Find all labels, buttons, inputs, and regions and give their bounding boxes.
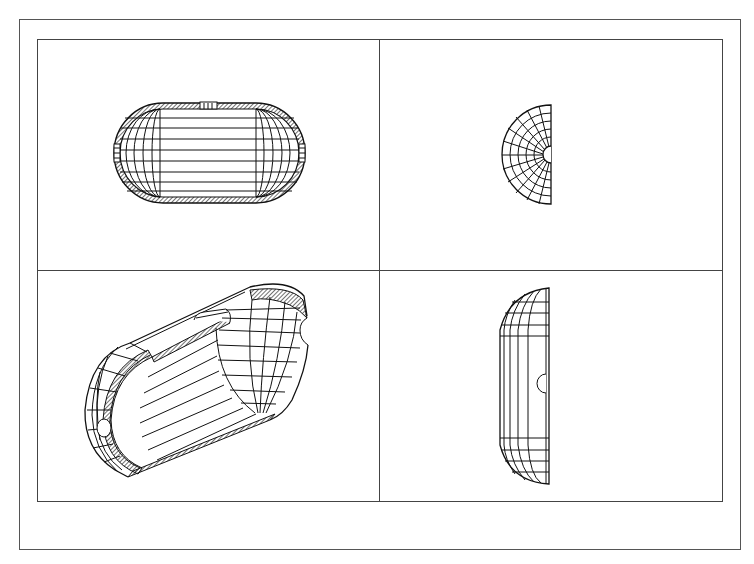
half-capsule-profile <box>500 288 549 484</box>
side-view <box>0 0 754 564</box>
